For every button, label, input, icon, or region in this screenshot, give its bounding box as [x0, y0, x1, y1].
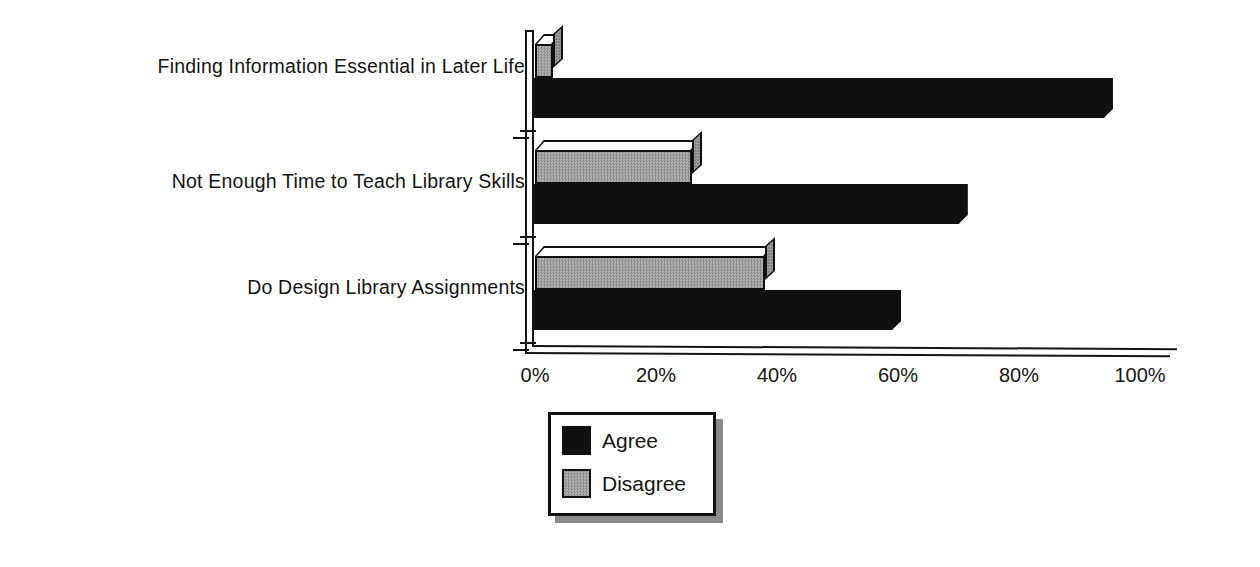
x-axis-tick-label: 0% [521, 365, 550, 385]
legend-item-agree: Agree [562, 426, 658, 455]
legend-swatch-agree-icon [562, 426, 591, 455]
bar-chart: Finding Information Essential in Later L… [0, 0, 1260, 567]
legend-item-disagree: Disagree [562, 469, 686, 498]
bar-front-face [535, 256, 765, 290]
category-label: Not Enough Time to Teach Library Skills [172, 172, 525, 192]
x-axis-tick-label: 60% [878, 365, 918, 385]
x-axis-tick-label: 80% [999, 365, 1039, 385]
x-axis-tick-label: 20% [636, 365, 676, 385]
category-label: Finding Information Essential in Later L… [158, 57, 525, 77]
bar-agree [532, 78, 1113, 118]
bar-front-face [532, 78, 1113, 118]
plot-area: 0% 20% 40% 60% 80% 100% [525, 30, 1185, 355]
bar-top-face [535, 140, 701, 150]
bar-disagree [535, 150, 692, 184]
legend-label: Disagree [602, 473, 686, 494]
x-axis-line [532, 345, 1177, 350]
y-axis-tick [513, 243, 529, 245]
bar-front-face [535, 44, 553, 78]
bar-agree [532, 184, 968, 224]
y-axis-tick [520, 236, 536, 238]
y-axis-tick [513, 137, 529, 139]
legend-label: Agree [602, 430, 658, 451]
bar-side-face [765, 237, 775, 280]
bar-disagree [535, 256, 765, 290]
bar-side-face [553, 25, 563, 68]
y-axis-tick [520, 342, 536, 344]
bar-front-face [532, 184, 968, 224]
bar-agree [532, 290, 901, 330]
bar-side-face [692, 131, 702, 174]
category-label: Do Design Library Assignments [247, 278, 525, 298]
y-axis-top-cap [525, 30, 534, 38]
x-axis-tick-label: 100% [1114, 365, 1165, 385]
y-axis-tick [520, 130, 536, 132]
bar-front-face [532, 290, 901, 330]
bar-front-face [535, 150, 692, 184]
legend-swatch-disagree-icon [562, 469, 591, 498]
chart-legend: Agree Disagree [548, 412, 716, 516]
x-axis-tick-label: 40% [757, 365, 797, 385]
x-axis-back-edge [525, 352, 1170, 357]
bar-disagree [535, 44, 553, 78]
y-axis-back-edge [525, 36, 527, 352]
y-axis-tick [513, 349, 529, 351]
bar-top-face [535, 246, 774, 256]
